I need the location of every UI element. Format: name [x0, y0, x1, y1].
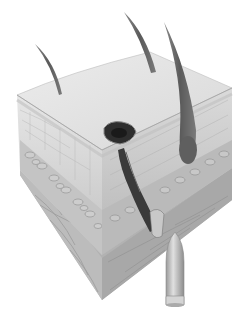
skin-illustration	[0, 0, 247, 321]
skin-cross-section-drawing	[0, 0, 247, 321]
lodged-bullet	[150, 209, 164, 237]
bullet	[166, 232, 184, 307]
